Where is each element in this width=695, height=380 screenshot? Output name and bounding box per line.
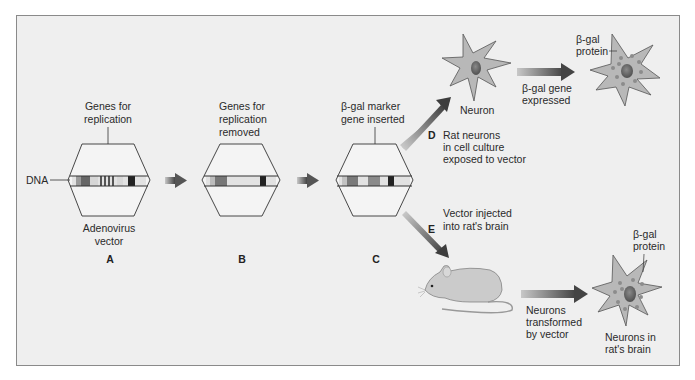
gene-expressed-label-2: expressed (522, 94, 571, 106)
branch-d-caption-3: exposed to vector (443, 153, 526, 165)
stage-b-top-label-3: removed (219, 126, 260, 138)
transformed-label-3: by vector (526, 328, 569, 340)
stage-c-top-label-1: β-gal marker (341, 100, 401, 112)
branch-d: D Rat neurons in cell culture exposed to… (400, 33, 660, 165)
brain-neurons-caption-2: rat's brain (605, 343, 651, 355)
stage-c-top-label-2: gene inserted (341, 113, 405, 125)
stage-b: Genes for replication removed B (202, 100, 280, 265)
stage-a-bottom-label-2: vector (95, 235, 124, 247)
branch-e-caption-1: Vector injected (443, 207, 512, 219)
brain-neuron-bgal-icon (592, 255, 662, 326)
stage-a-top-label-1: Genes for (85, 100, 132, 112)
stage-a: Genes for replication DNA Adenovirus vec… (26, 100, 150, 265)
bgal-protein-label-e-1: β-gal (633, 228, 657, 240)
bgal-protein-label-d-1: β-gal (576, 33, 600, 45)
diagram-canvas: Genes for replication DNA Adenovirus vec… (0, 0, 695, 380)
arrow-b-to-c (297, 173, 319, 188)
arrow-gene-expressed (517, 63, 575, 81)
neuron-icon (442, 34, 511, 101)
stage-c: β-gal marker gene inserted C (336, 100, 413, 265)
transformed-label-2: transformed (526, 316, 582, 328)
rat-icon (418, 266, 512, 313)
stage-b-top-label-2: replication (219, 113, 267, 125)
arrow-neurons-transformed (521, 285, 588, 303)
gene-expressed-label-1: β-gal gene (522, 82, 572, 94)
branch-d-caption-1: Rat neurons (443, 129, 500, 141)
stage-a-letter: A (106, 253, 114, 265)
bgal-protein-label-d-2: protein (576, 45, 608, 57)
stage-a-top-label-2: replication (84, 113, 132, 125)
arrow-e (402, 211, 444, 254)
stage-a-bottom-label-1: Adenovirus (83, 222, 136, 234)
branch-d-caption-2: in cell culture (443, 141, 504, 153)
branch-e-letter: E (428, 223, 435, 235)
dna-label: DNA (26, 174, 48, 186)
brain-neurons-caption-1: Neurons in (605, 331, 656, 343)
dna-strip-a (70, 176, 148, 186)
branch-e-caption-2: into rat's brain (443, 220, 509, 232)
neuron-label: Neuron (460, 104, 495, 116)
bgal-protein-label-e-2: protein (633, 240, 665, 252)
transformed-label-1: Neurons (526, 304, 566, 316)
dna-strip-c (337, 176, 412, 186)
stage-b-top-label-1: Genes for (219, 100, 266, 112)
stage-b-letter: B (238, 253, 246, 265)
dna-strip-b (204, 176, 278, 186)
branch-d-letter: D (428, 129, 436, 141)
arrow-a-to-b (165, 173, 187, 188)
stage-c-letter: C (372, 253, 380, 265)
branch-e: E Vector injected into rat's brain Neuro… (402, 207, 665, 355)
